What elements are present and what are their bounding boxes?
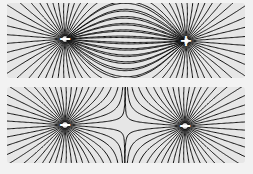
field-lines-opposite (7, 3, 245, 78)
field-lines-like (7, 87, 245, 163)
negative-charge-label-left: − (58, 117, 71, 133)
positive-charge-label: + (179, 33, 192, 49)
negative-charge-label: − (58, 31, 71, 47)
like-charges-field-diagram: − − (7, 87, 245, 163)
negative-charge-label-right: − (178, 118, 191, 134)
dipole-field-diagram: − + (7, 3, 245, 78)
